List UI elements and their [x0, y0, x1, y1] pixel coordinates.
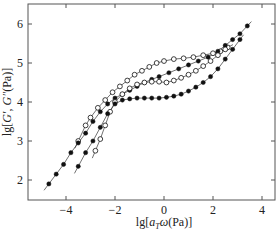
filled-circle-marker — [238, 32, 242, 36]
open-circle-marker — [201, 64, 206, 69]
filled-circle-marker — [179, 92, 183, 96]
open-circle-marker — [140, 68, 145, 73]
open-circle-marker — [118, 84, 123, 89]
filled-circle-marker — [135, 96, 139, 100]
filled-circle-marker — [128, 97, 132, 101]
filled-circle-marker — [76, 164, 80, 168]
open-circle-marker — [110, 90, 115, 95]
open-circle-marker — [211, 51, 216, 56]
fit-lines — [44, 22, 251, 191]
open-circle-marker — [149, 79, 154, 84]
filled-circle-marker — [91, 139, 95, 143]
y-tick-label: 3 — [17, 134, 23, 148]
filled-circle-marker — [167, 71, 171, 75]
open-circle-marker — [93, 148, 98, 153]
open-circle-marker — [164, 80, 169, 85]
open-circle-marker — [120, 92, 125, 97]
y-tick-label: 2 — [17, 173, 23, 187]
x-tick-label: −4 — [60, 203, 73, 217]
open-circle-marker — [127, 86, 132, 91]
open-circle-marker — [191, 55, 196, 60]
filled-circle-marker — [106, 112, 110, 116]
open-circle-marker — [98, 137, 103, 142]
open-circle-marker — [125, 78, 130, 83]
filled-circle-marker — [61, 162, 65, 166]
y-tick-label: 4 — [17, 95, 23, 109]
filled-circle-marker — [223, 57, 227, 61]
filled-circle-marker — [157, 75, 161, 79]
open-circle-marker — [171, 57, 176, 62]
open-circle-marker — [142, 80, 147, 85]
open-circle-marker — [208, 59, 213, 64]
filled-circle-marker — [69, 151, 73, 155]
filled-circle-marker — [76, 141, 80, 145]
open-circle-marker — [179, 75, 184, 80]
filled-circle-marker — [98, 125, 102, 129]
filled-circle-marker — [113, 102, 117, 106]
filled-circle-marker — [186, 63, 190, 67]
open-circle-marker — [135, 82, 140, 87]
filled-circle-marker — [208, 75, 212, 79]
open-circle-marker — [181, 56, 186, 61]
filled-circle-marker — [98, 110, 102, 114]
filled-circle-marker — [150, 96, 154, 100]
filled-circle-marker — [142, 96, 146, 100]
series-line — [44, 22, 251, 191]
open-circle-marker — [186, 72, 191, 77]
filled-circle-marker — [245, 24, 249, 28]
open-circle-marker — [157, 79, 162, 84]
data-markers — [47, 24, 250, 186]
filled-circle-marker — [186, 89, 190, 93]
open-circle-marker — [193, 68, 198, 73]
filled-circle-marker — [47, 182, 51, 186]
open-circle-marker — [171, 78, 176, 83]
open-circle-marker — [216, 53, 221, 58]
x-tick-label: 4 — [259, 203, 265, 217]
filled-circle-marker — [201, 80, 205, 84]
x-axis-label: lg[aTω(Pa)] — [136, 215, 192, 230]
rheology-chart: −4−2024 23456 lg[aTω(Pa)] lg[G′, G″(Pa)] — [0, 0, 279, 230]
filled-circle-marker — [84, 131, 88, 135]
filled-circle-marker — [238, 38, 242, 42]
filled-circle-marker — [54, 172, 58, 176]
filled-circle-marker — [177, 67, 181, 71]
open-circle-marker — [132, 72, 137, 77]
filled-circle-marker — [196, 59, 200, 63]
open-circle-marker — [147, 65, 152, 70]
y-tick-label: 6 — [17, 17, 23, 31]
filled-circle-marker — [216, 67, 220, 71]
x-tick-label: −2 — [109, 203, 122, 217]
y-tick-labels: 23456 — [17, 17, 23, 187]
y-axis-label: lg[G′, G″(Pa)] — [0, 68, 14, 136]
open-circle-marker — [223, 47, 228, 52]
open-circle-marker — [162, 59, 167, 64]
filled-circle-marker — [106, 102, 110, 106]
filled-circle-marker — [231, 38, 235, 42]
open-circle-marker — [83, 123, 88, 128]
open-circle-marker — [201, 53, 206, 58]
y-tick-label: 5 — [17, 56, 23, 70]
open-circle-marker — [103, 123, 108, 128]
filled-circle-marker — [120, 98, 124, 102]
x-tick-label: 2 — [210, 203, 216, 217]
filled-circle-marker — [231, 47, 235, 51]
filled-circle-marker — [84, 151, 88, 155]
filled-circle-marker — [157, 96, 161, 100]
filled-circle-marker — [164, 95, 168, 99]
filled-circle-marker — [194, 85, 198, 89]
filled-circle-marker — [91, 119, 95, 123]
filled-circle-marker — [172, 94, 176, 98]
open-circle-marker — [154, 61, 159, 66]
